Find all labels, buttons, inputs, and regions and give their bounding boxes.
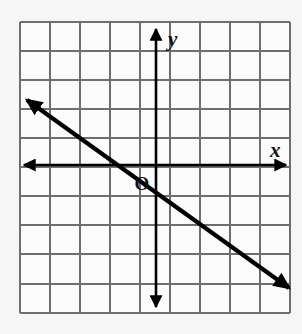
origin-label: O xyxy=(135,173,150,194)
x-axis-label: x xyxy=(269,138,281,162)
graph-figure: y x O xyxy=(0,0,302,334)
coordinate-plane-svg: y x O xyxy=(0,0,302,334)
